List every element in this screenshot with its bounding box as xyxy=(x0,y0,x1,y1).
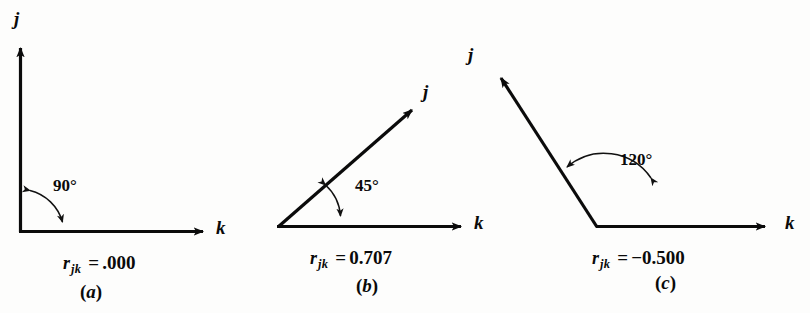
panel-b-r-symbol: r xyxy=(310,248,317,268)
panel-c-caption-close: ) xyxy=(670,272,676,293)
panel-a-caption-close: ) xyxy=(96,281,102,302)
panel-b-r-equals: = xyxy=(328,247,349,268)
panel-c-angle-label: 120° xyxy=(620,150,652,170)
panel-b-caption-letter: b xyxy=(362,275,372,296)
panel-a-caption-letter: a xyxy=(86,281,96,302)
panel-b-j-label: j xyxy=(423,81,428,103)
panel-a-r-symbol: r xyxy=(63,253,70,273)
panel-b-j-axis xyxy=(278,110,412,227)
panel-c-j-label: j xyxy=(468,44,473,66)
panel-a-graphics xyxy=(19,48,203,232)
panel-c-r-value: rjk=−0.500 xyxy=(592,247,685,272)
figure-root: j k 90° rjk=.000 (a) j k 45° rjk=0.707 (… xyxy=(0,0,810,313)
panel-b-caption-close: ) xyxy=(372,275,378,296)
panel-c-r-subscript: jk xyxy=(599,257,610,271)
panel-a-angle-label: 90° xyxy=(53,176,77,196)
panel-b-caption: (b) xyxy=(356,275,378,297)
panel-a-k-label: k xyxy=(216,217,226,239)
panel-b-angle-arc xyxy=(326,185,341,216)
panel-a-caption: (a) xyxy=(80,281,102,303)
panel-b-r-value: rjk=0.707 xyxy=(310,247,392,272)
panel-b-angle-label: 45° xyxy=(355,176,379,196)
panel-a-r-subscript: jk xyxy=(70,262,81,276)
panel-c-j-axis xyxy=(501,78,597,227)
panel-a-r-equals: = xyxy=(81,252,102,273)
panel-c-r-symbol: r xyxy=(592,248,599,268)
panel-c-caption: (c) xyxy=(655,272,676,294)
panel-c-r-equals: = xyxy=(610,247,631,268)
panel-b-r-number: 0.707 xyxy=(349,247,392,268)
panel-c-caption-letter: c xyxy=(661,272,669,293)
panel-a-r-number: .000 xyxy=(102,252,135,273)
panel-c-k-label: k xyxy=(785,212,795,234)
panel-a-j-label: j xyxy=(14,8,19,30)
panel-b-r-subscript: jk xyxy=(317,257,328,271)
panel-c-r-number: −0.500 xyxy=(631,247,685,268)
panel-b-graphics xyxy=(277,110,461,227)
panel-b-k-label: k xyxy=(474,212,484,234)
panel-a-r-value: rjk=.000 xyxy=(63,252,135,277)
